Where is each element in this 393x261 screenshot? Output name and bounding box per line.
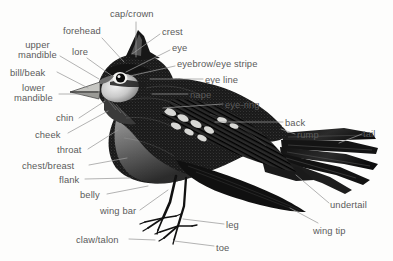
label-cheek: cheek	[35, 130, 61, 140]
label-undertail: undertail	[330, 200, 367, 210]
leader-line-wing-bar	[140, 190, 168, 210]
label-forehead: forehead	[63, 26, 101, 36]
label-eye-line: eye line	[205, 75, 238, 85]
leader-line-leg	[183, 219, 224, 224]
label-leg: leg	[226, 220, 239, 230]
label-eye-ring: eye-ring	[225, 100, 260, 110]
label-belly: belly	[80, 190, 100, 200]
leader-line-throat	[88, 130, 118, 149]
leader-line-toe	[174, 241, 214, 246]
label-lore: lore	[72, 47, 88, 57]
leader-line-chest-breast	[89, 158, 127, 165]
label-wing-tip: wing tip	[313, 226, 346, 236]
label-back: back	[285, 118, 305, 128]
leader-line-lore	[87, 58, 112, 76]
label-chin: chin	[56, 113, 74, 123]
leader-line-chin	[79, 101, 105, 118]
label-cap-crown: cap/crown	[110, 9, 154, 19]
leader-line-forehead	[102, 38, 124, 62]
label-rump: rump	[297, 130, 319, 140]
leader-line-tail	[339, 134, 362, 143]
leader-line-eyebrow-eye-stripe	[130, 66, 175, 76]
label-tail: tail	[363, 129, 375, 139]
leader-line-undertail	[296, 175, 329, 203]
label-crest: crest	[162, 27, 183, 37]
leader-line-claw-talon	[129, 239, 155, 240]
leader-line-wing-tip	[290, 208, 318, 223]
leader-line-eye-ring	[163, 104, 223, 108]
label-claw-talon: claw/talon	[76, 235, 119, 245]
bird-anatomy-diagram: cap/crownforeheadcresteyeuppermandiblelo…	[0, 0, 393, 261]
leader-line-bill-beak	[57, 72, 88, 88]
leader-line-upper-mandible	[60, 56, 99, 79]
label-chest-breast: chest/breast	[22, 161, 74, 171]
label-throat: throat	[57, 145, 82, 155]
label-toe: toe	[216, 243, 229, 253]
label-wing-bar: wing bar	[100, 206, 136, 216]
leader-line-belly	[107, 186, 148, 194]
label-lower-mandible: lowermandible	[14, 83, 53, 104]
label-eye: eye	[172, 43, 187, 53]
leader-line-cheek	[68, 111, 108, 133]
leader-line-rump	[281, 129, 295, 134]
label-eyebrow-eye-stripe: eyebrow/eye stripe	[177, 59, 258, 69]
label-bill-beak: bill/beak	[10, 68, 45, 78]
label-upper-mandible: uppermandible	[18, 40, 57, 61]
label-nape: nape	[190, 90, 211, 100]
leader-line-flank	[85, 178, 130, 179]
label-flank: flank	[59, 175, 79, 185]
